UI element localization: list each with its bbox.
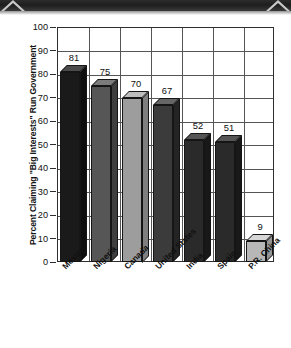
y-tick: 80 <box>0 68 57 80</box>
y-tick-label: 10 <box>38 233 48 245</box>
y-tick-label: 0 <box>43 256 48 268</box>
y-tick-mark <box>50 215 56 216</box>
y-tick-mark <box>50 97 56 98</box>
y-tick: 20 <box>0 209 57 221</box>
y-tick-mark <box>50 262 56 263</box>
y-tick: 90 <box>0 45 57 57</box>
y-tick-mark <box>50 74 56 75</box>
bar-value-label: 9 <box>240 221 280 232</box>
bar-nigeria[interactable] <box>91 27 111 262</box>
y-tick-mark <box>50 191 56 192</box>
bar-side-face <box>111 79 118 262</box>
bar-canada[interactable] <box>122 27 142 262</box>
y-tick-label: 30 <box>38 186 48 198</box>
y-tick: 100 <box>0 21 57 33</box>
y-tick: 60 <box>0 115 57 127</box>
y-tick-mark <box>50 238 56 239</box>
y-tick: 40 <box>0 162 57 174</box>
y-tick-mark <box>50 27 56 28</box>
bar-front-face <box>122 98 142 263</box>
bar-value-label: 51 <box>209 122 249 133</box>
x-axis-category-labels: MexicoNigeriaCanadaUnited StatesIndiaSpa… <box>57 264 274 348</box>
y-tick-label: 40 <box>38 162 48 174</box>
bar-side-face <box>142 91 149 263</box>
bar-united-states[interactable] <box>153 27 173 262</box>
y-tick-label: 20 <box>38 209 48 221</box>
bar-chart-figure: Percent Claiming "Big Interests" Run Gov… <box>0 0 291 348</box>
y-tick: 30 <box>0 186 57 198</box>
bar-spain[interactable] <box>215 27 235 262</box>
y-tick-label: 70 <box>38 92 48 104</box>
bar-side-face <box>235 135 242 262</box>
y-tick: 0 <box>0 256 57 268</box>
bar-side-face <box>204 133 211 262</box>
y-tick: 50 <box>0 139 57 151</box>
bar-value-label: 81 <box>54 52 94 63</box>
y-tick-label: 50 <box>38 139 48 151</box>
bar-front-face <box>91 86 111 262</box>
bar-value-label: 75 <box>85 66 125 77</box>
y-tick-mark <box>50 144 56 145</box>
y-axis-ticks: 1009080706050403020100 <box>0 0 57 348</box>
y-tick-label: 60 <box>38 115 48 127</box>
y-tick: 70 <box>0 92 57 104</box>
y-tick-mark <box>50 168 56 169</box>
bar-front-face <box>215 142 235 262</box>
bar-value-label: 67 <box>147 85 187 96</box>
bar-front-face <box>60 72 80 262</box>
bar-india[interactable] <box>184 27 204 262</box>
y-tick-label: 90 <box>38 45 48 57</box>
y-tick-mark <box>50 121 56 122</box>
bar-front-face <box>153 105 173 262</box>
y-tick: 10 <box>0 233 57 245</box>
bar-series: 8175706752519 <box>57 27 274 262</box>
y-tick-label: 100 <box>33 21 48 33</box>
bar-side-face <box>80 65 87 262</box>
y-tick-label: 80 <box>38 68 48 80</box>
